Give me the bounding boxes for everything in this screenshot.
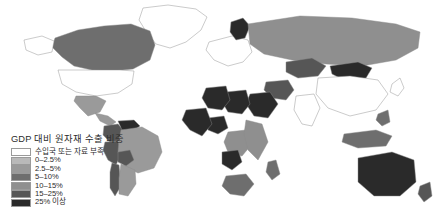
country-centralamerica (95, 113, 116, 126)
country-south-africa (222, 174, 254, 196)
country-madagascar (266, 160, 280, 180)
country-alaskapart (24, 36, 54, 55)
country-canada (52, 24, 155, 71)
legend-label: 25% 이상 (35, 198, 66, 206)
legend-rows: 수입국 또는 자료 부족0–2.5%2.5–5%5–10%10–15%15–25… (11, 148, 131, 207)
legend-swatch (11, 199, 31, 207)
legend-swatch (11, 148, 31, 156)
legend-row: 2.5–5% (11, 165, 131, 173)
legend-row: 15–25% (11, 190, 131, 198)
legend-swatch (11, 157, 31, 165)
country-new-zealand (418, 182, 432, 202)
legend-title: GDP 대비 원자재 수출 비중 (11, 131, 131, 145)
choropleth-map-figure: GDP 대비 원자재 수출 비중 수입국 또는 자료 부족0–2.5%2.5–5… (0, 0, 436, 222)
legend-row: 10–15% (11, 182, 131, 190)
legend-row: 수입국 또는 자료 부족 (11, 148, 131, 156)
legend-swatch (11, 190, 31, 198)
country-western-europe (206, 36, 252, 66)
country-africawest (182, 108, 212, 136)
legend-row: 5–10% (11, 173, 131, 181)
country-australia (358, 152, 416, 196)
country-angola (222, 150, 242, 170)
legend-swatch (11, 173, 31, 181)
country-india (294, 94, 320, 126)
legend-row: 25% 이상 (11, 198, 131, 206)
map-legend: GDP 대비 원자재 수출 비중 수입국 또는 자료 부족0–2.5%2.5–5… (11, 131, 131, 207)
country-united-states (58, 70, 134, 96)
country-russia (248, 16, 420, 66)
country-mexico (74, 96, 106, 116)
country-china (316, 76, 388, 116)
legend-swatch (11, 165, 31, 173)
legend-row: 0–2.5% (11, 156, 131, 164)
country-philippines (376, 110, 390, 126)
legend-swatch (11, 182, 31, 190)
country-africaeast (244, 120, 268, 160)
country-indonesia (342, 130, 392, 148)
country-japan (390, 78, 404, 96)
